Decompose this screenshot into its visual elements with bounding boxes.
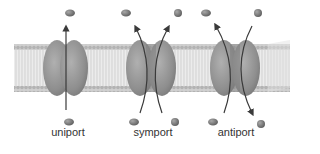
ion-icon (171, 118, 179, 126)
ion-icon (174, 9, 182, 17)
solute-icon (208, 119, 218, 126)
antiport-transporter (201, 9, 265, 128)
uniport-label: uniport (28, 126, 108, 138)
solute-icon (129, 119, 139, 126)
ion-icon (254, 9, 262, 17)
uniport-protein-right (60, 40, 88, 96)
solute-icon (64, 119, 74, 126)
antiport-label: antiport (196, 126, 276, 138)
symport-transporter (121, 9, 182, 126)
symport-label: symport (113, 126, 193, 138)
solute-icon (201, 10, 211, 17)
uniport-transporter (43, 10, 88, 126)
solute-icon (65, 10, 75, 17)
solute-icon (121, 10, 131, 17)
